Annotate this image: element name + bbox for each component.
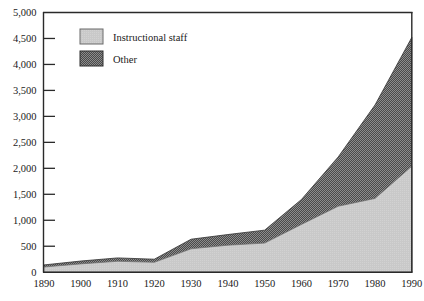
y-axis-tick-label: 5,000 [13,7,37,18]
legend-swatch-instructional-staff [80,29,103,44]
x-axis-tick-label: 1990 [401,278,422,289]
x-axis-tick-label: 1920 [144,278,165,289]
y-axis-tick-label: 2,500 [13,137,37,148]
chart-canvas: 05001,0001,5002,0002,5003,0003,5004,0004… [0,0,424,301]
legend-swatch-other [80,51,103,66]
y-axis-tick-label: 3,500 [13,85,37,96]
legend-label-instructional-staff: Instructional staff [113,32,188,43]
y-axis-tick-label: 500 [21,241,37,252]
stacked-area-chart: 05001,0001,5002,0002,5003,0003,5004,0004… [0,0,424,301]
x-axis-tick-label: 1900 [70,278,91,289]
x-axis-tick-label: 1950 [254,278,275,289]
y-axis-tick-label: 3,000 [13,111,37,122]
x-axis-tick-label: 1940 [217,278,238,289]
y-axis-tick-label: 1,000 [13,215,37,226]
y-axis-tick-label: 1,500 [13,189,37,200]
x-axis-tick-label: 1960 [291,278,312,289]
y-axis-tick-label: 4,500 [13,33,37,44]
y-axis-tick-label: 2,000 [13,163,37,174]
x-axis-tick-label: 1930 [181,278,202,289]
x-axis-tick-label: 1910 [107,278,128,289]
legend-label-other: Other [113,54,137,65]
x-axis-tick-label: 1890 [34,278,55,289]
x-axis-tick-label: 1970 [328,278,349,289]
y-axis-tick-label: 0 [31,267,36,278]
y-axis-tick-label: 4,000 [13,59,37,70]
x-axis-tick-label: 1980 [365,278,386,289]
